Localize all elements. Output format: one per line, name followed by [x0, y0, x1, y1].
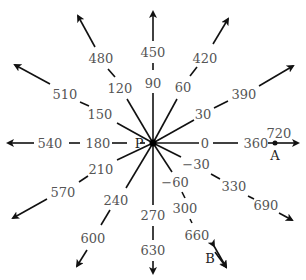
angle-label: 450 — [141, 45, 166, 60]
ray-segment — [15, 65, 50, 84]
angle-label: 390 — [232, 87, 257, 102]
ray-segment — [190, 67, 197, 76]
angle-label: 660 — [185, 228, 210, 243]
angle-label: 270 — [141, 208, 166, 223]
angle-ray-diagram: 0360720303906042090450120480150510180540… — [0, 0, 306, 280]
angle-label: 690 — [254, 198, 279, 213]
angle-label: −30 — [182, 157, 209, 172]
ray-segment — [190, 219, 192, 223]
ray-segment — [211, 174, 220, 179]
angle-label: 30 — [195, 107, 212, 122]
angle-label: 630 — [141, 243, 166, 258]
ray-segment — [213, 19, 228, 44]
angle-label: 420 — [193, 51, 218, 66]
angle-label: 720 — [267, 126, 292, 141]
angle-labels-layer: 0360720303906042090450120480150510180540… — [38, 45, 292, 258]
ray-segment — [78, 16, 95, 47]
diagram-canvas: 0360720303906042090450120480150510180540… — [0, 0, 306, 280]
ray-210 — [13, 143, 153, 218]
point-dot — [273, 141, 278, 146]
point-label: A — [269, 148, 280, 163]
angle-label: 330 — [222, 179, 247, 194]
angle-label: 60 — [175, 80, 192, 95]
angle-label: 570 — [51, 185, 76, 200]
ray-segment — [259, 66, 293, 86]
ray-150 — [15, 65, 153, 143]
ray-120 — [78, 16, 153, 143]
angle-label: 90 — [145, 76, 162, 91]
ray-segment — [79, 176, 88, 182]
angle-label: 240 — [104, 193, 129, 208]
ray-segment — [182, 192, 185, 198]
point-label: B — [205, 251, 215, 266]
angle-label: 600 — [81, 231, 106, 246]
ray-segment — [108, 69, 115, 77]
ray-segment — [214, 101, 228, 108]
angle-label: 180 — [86, 136, 111, 151]
ray-segment — [77, 250, 87, 266]
double-arrow — [214, 246, 226, 267]
center-point-label: P — [135, 136, 144, 151]
angle-label: 480 — [89, 51, 114, 66]
center-point-dot — [150, 140, 157, 147]
angle-label: 540 — [38, 136, 63, 151]
angle-label: 120 — [108, 81, 133, 96]
ray-segment — [13, 199, 47, 218]
ray-segment — [80, 102, 89, 106]
angle-label: −60 — [161, 175, 188, 190]
angle-label: 210 — [89, 162, 114, 177]
ray-segment — [279, 213, 292, 220]
angle-label: 300 — [173, 201, 198, 216]
angle-label: 150 — [88, 107, 113, 122]
angle-label: 510 — [53, 87, 78, 102]
angle-label: 360 — [244, 136, 269, 151]
angle-label: 0 — [201, 136, 209, 151]
ray-segment — [101, 210, 110, 225]
